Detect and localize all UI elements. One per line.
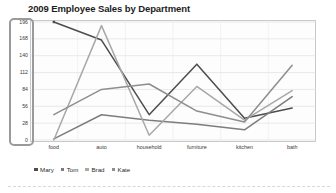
data-point-marker[interactable] (53, 21, 55, 23)
gridlines (30, 20, 316, 142)
legend-item-tom[interactable]: Tom (61, 166, 79, 173)
plot-lines (30, 20, 316, 142)
chart-widget[interactable]: 2009 Employee Sales by Department 028568… (0, 0, 336, 193)
legend-item-kate[interactable]: Kate (112, 166, 131, 173)
legend-item-brad[interactable]: Brad (85, 166, 104, 173)
x-tick-label-household: household (137, 144, 162, 150)
x-tick-label-furniture: furniture (187, 144, 207, 150)
chart-legend[interactable]: MaryTomBradKate (34, 166, 130, 173)
x-tick-label-bath: bath (287, 144, 298, 150)
legend-swatch-icon (85, 168, 89, 172)
legend-label: Kate (118, 166, 131, 173)
legend-label: Mary (40, 166, 54, 173)
legend-item-mary[interactable]: Mary (34, 166, 54, 173)
legend-swatch-icon (112, 168, 116, 172)
x-tick-label-auto: auto (96, 144, 107, 150)
x-tick-label-kitchen: kitchen (236, 144, 253, 150)
legend-swatch-icon (34, 168, 38, 172)
legend-swatch-icon (61, 168, 65, 172)
legend-label: Brad (91, 166, 104, 173)
legend-label: Tom (67, 166, 79, 173)
x-axis-tick-labels: foodautohouseholdfurniturekitchenbath (30, 144, 316, 154)
chart-title[interactable]: 2009 Employee Sales by Department (28, 3, 190, 14)
x-tick-label-food: food (49, 144, 60, 150)
bottom-divider (8, 186, 330, 187)
y-axis-selection-box[interactable] (9, 18, 34, 146)
